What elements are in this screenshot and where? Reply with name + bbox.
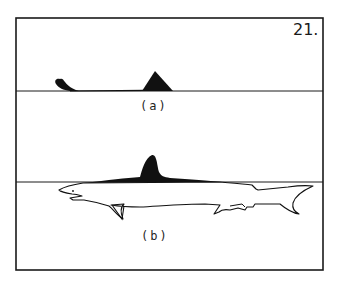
shark-back-b bbox=[83, 155, 220, 183]
shark-eye-b bbox=[72, 190, 74, 192]
figure-border bbox=[16, 18, 323, 270]
shark-body-b bbox=[59, 182, 313, 219]
back-ridge-a bbox=[70, 90, 145, 91]
figure-frame bbox=[0, 0, 342, 283]
panel-b-label: (b) bbox=[141, 229, 169, 243]
dorsal-fin-a bbox=[142, 71, 173, 91]
figure-illustration bbox=[0, 0, 342, 283]
figure-number: 21. bbox=[293, 20, 318, 39]
panel-a-label: (a) bbox=[140, 99, 168, 113]
tail-fin-a bbox=[55, 79, 79, 91]
